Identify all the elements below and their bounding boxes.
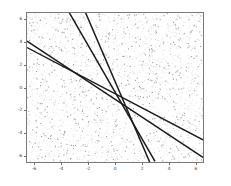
- x-tick-mark: [142, 163, 143, 165]
- x-tick-label: -6: [32, 167, 36, 171]
- x-tick-label: 2: [141, 167, 144, 171]
- x-tick-label: 6: [195, 167, 198, 171]
- y-tick-label: 4: [9, 40, 22, 44]
- fitted-line-1: [27, 48, 203, 140]
- x-tick-mark: [61, 163, 62, 165]
- x-tick-label: -4: [59, 167, 63, 171]
- y-tick-mark: [24, 65, 26, 66]
- fitted-line-3: [43, 13, 155, 161]
- x-tick-mark: [169, 163, 170, 165]
- x-tick-label: -2: [86, 167, 90, 171]
- y-tick-label: 2: [9, 62, 22, 66]
- fitted-line-2: [27, 41, 203, 157]
- figure-canvas: -6-4-20246 -6-4-20246: [0, 0, 231, 186]
- y-tick-mark: [24, 156, 26, 157]
- y-tick-label: -4: [9, 131, 22, 135]
- y-tick-mark: [24, 19, 26, 20]
- y-tick-mark: [24, 133, 26, 134]
- fitted-line-4: [68, 13, 149, 162]
- x-tick-label: 4: [168, 167, 171, 171]
- x-tick-mark: [34, 163, 35, 165]
- y-tick-mark: [24, 88, 26, 89]
- x-tick-label: 0: [114, 167, 117, 171]
- y-tick-mark: [24, 110, 26, 111]
- y-tick-label: 6: [9, 17, 22, 21]
- y-tick-label: -2: [9, 108, 22, 112]
- y-tick-label: 0: [9, 85, 22, 89]
- x-tick-mark: [88, 163, 89, 165]
- plot-area: [26, 12, 204, 163]
- x-tick-mark: [196, 163, 197, 165]
- y-tick-mark: [24, 42, 26, 43]
- fitted-lines-group: [27, 13, 203, 162]
- x-tick-mark: [115, 163, 116, 165]
- y-tick-label: -6: [9, 154, 22, 158]
